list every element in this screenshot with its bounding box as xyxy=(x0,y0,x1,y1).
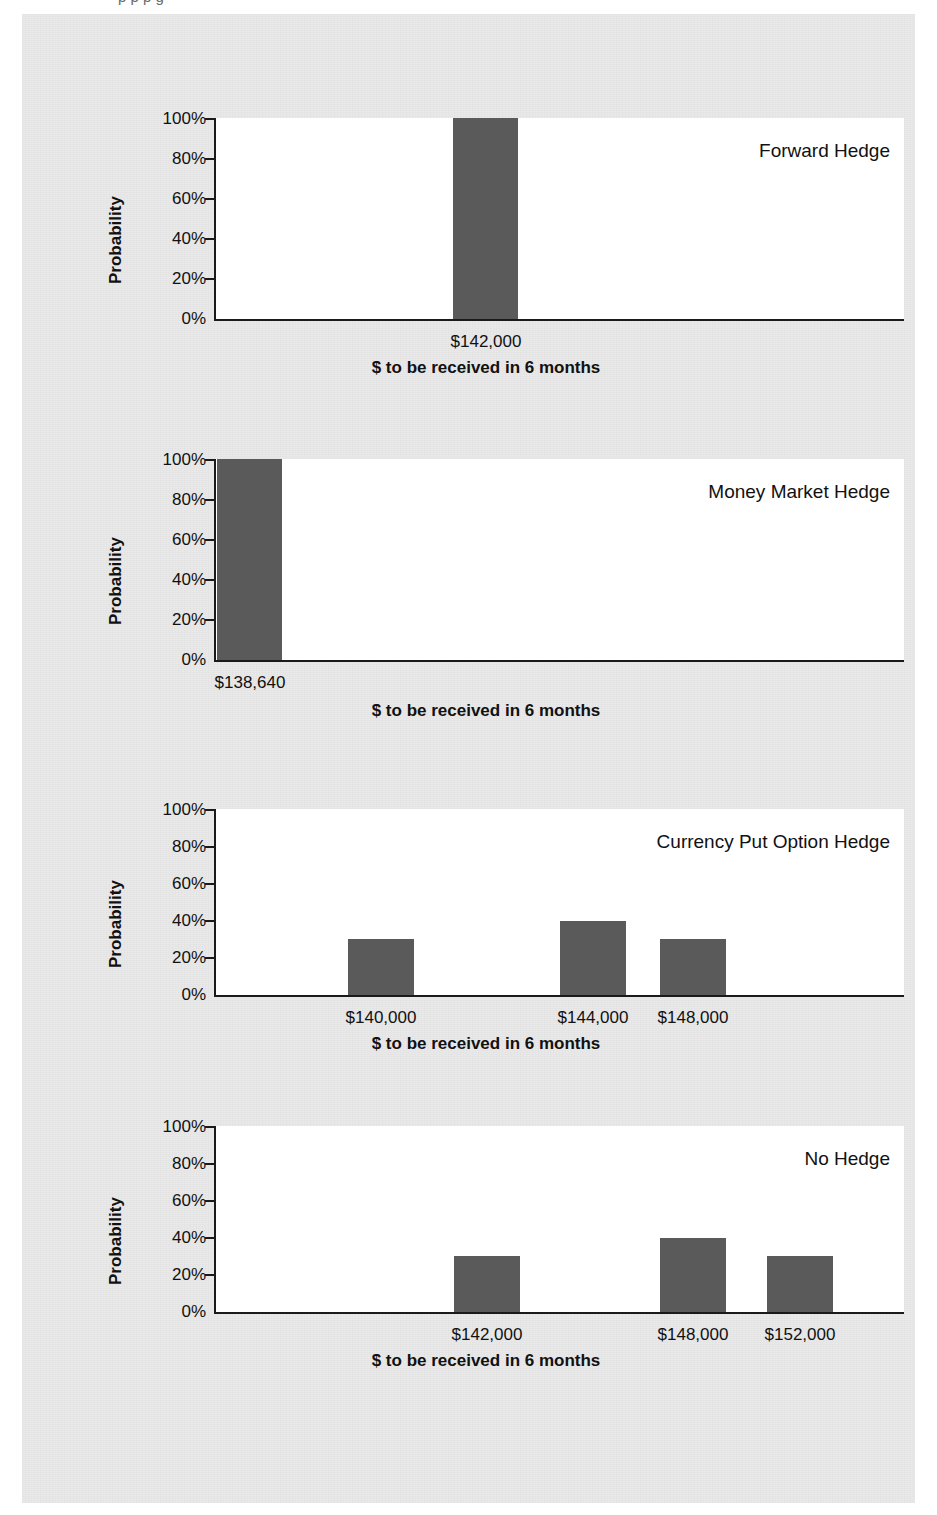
y-tick-label-4-20: 20% xyxy=(130,1265,206,1285)
y-tick-mark-4-40 xyxy=(205,1237,214,1239)
x-tick-label-4-1: $148,000 xyxy=(658,1325,729,1345)
chart-title-4: No Hedge xyxy=(804,1148,890,1170)
bar-4-0 xyxy=(454,1256,520,1312)
bar-4-1 xyxy=(660,1238,726,1312)
y-tick-label-4-80: 80% xyxy=(130,1154,206,1174)
y-tick-mark-4-80 xyxy=(205,1163,214,1165)
x-tick-label-4-0: $142,000 xyxy=(452,1325,523,1345)
y-tick-mark-4-60 xyxy=(205,1200,214,1202)
y-tick-label-4-60: 60% xyxy=(130,1191,206,1211)
y-tick-label-4-40: 40% xyxy=(130,1228,206,1248)
y-tick-label-4-0: 0% xyxy=(130,1302,206,1322)
figure-page: p p p g Probability 100% 80% 60% 40% 20%… xyxy=(0,0,937,1515)
plot-area-4: No Hedge xyxy=(216,1126,904,1312)
y-tick-label-4-100: 100% xyxy=(130,1117,206,1137)
x-axis-title-4: $ to be received in 6 months xyxy=(372,1351,601,1371)
chart-no-hedge: Probability 100% 80% 60% 40% 20% 0% No H… xyxy=(0,0,937,1460)
y-axis-title-4: Probability xyxy=(106,1197,126,1285)
y-tick-mark-4-20 xyxy=(205,1274,214,1276)
x-axis-line-4 xyxy=(214,1312,904,1314)
x-tick-label-4-2: $152,000 xyxy=(765,1325,836,1345)
bar-4-2 xyxy=(767,1256,833,1312)
y-tick-mark-4-100 xyxy=(205,1126,214,1128)
